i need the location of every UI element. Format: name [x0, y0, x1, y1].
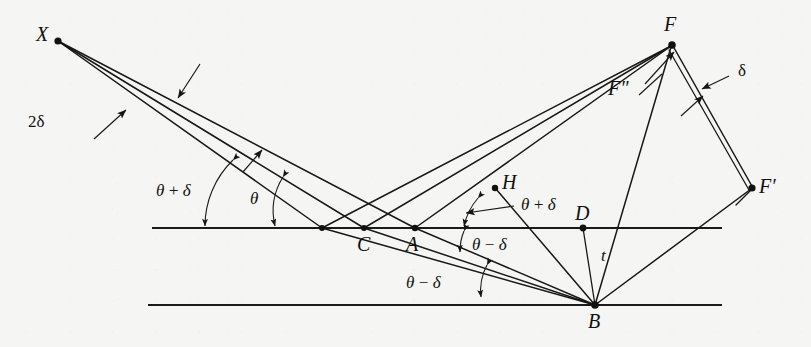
label-F-prime: F′ [759, 176, 776, 196]
ray-diagram-figure: X C A H D B F F″ F′ t 2δ θ + δ θ θ + δ θ… [0, 0, 811, 347]
two-delta-lower-leader [94, 110, 126, 139]
dot-A [412, 225, 418, 231]
label-B: B [588, 311, 600, 331]
dot-X [54, 37, 61, 44]
incident-ray-bundle [58, 41, 415, 228]
label-theta-plus-delta-mid: θ + δ [521, 196, 556, 213]
edge-F-to-Fprime-inner [669, 50, 749, 190]
label-delta: δ [738, 62, 746, 79]
label-theta-plus-delta-left: θ + δ [156, 182, 191, 199]
ray-B-to-Fprime [595, 189, 751, 305]
label-thickness-t: t [601, 247, 606, 264]
label-theta-minus-delta-lower: θ − δ [406, 274, 441, 291]
label-X: X [36, 24, 48, 44]
edge-Fprime-tail [736, 189, 752, 205]
dot-F [668, 41, 676, 49]
label-D: D [575, 203, 589, 223]
dot-Fprime [748, 184, 755, 191]
incident-ray-3 [58, 41, 415, 228]
two-delta-upper-leader [178, 64, 200, 98]
dot-B [591, 301, 599, 309]
label-theta-minus-delta-upper: θ − δ [472, 236, 507, 253]
reflected-ray-1 [322, 46, 671, 228]
wedge-inner-leader [681, 96, 703, 116]
x-ray-lower-leader [243, 150, 262, 172]
label-F-double-prime: F″ [608, 78, 629, 98]
arc-theta [273, 177, 283, 226]
ray-B-to-F [595, 47, 671, 305]
dot-H [492, 185, 498, 191]
label-two-delta: 2δ [28, 113, 45, 130]
plate-surfaces [148, 228, 722, 305]
dot-C [361, 225, 367, 231]
arc-theta-plus-delta-left [205, 160, 233, 226]
label-F: F [664, 14, 676, 34]
label-A: A [406, 234, 418, 254]
delta-leader [702, 76, 729, 89]
label-theta: θ [250, 190, 258, 207]
label-C: C [357, 234, 370, 254]
theta-plus-delta-mid-leader [466, 206, 514, 213]
incident-ray-2 [58, 41, 364, 228]
reflected-ray-bundle [322, 46, 671, 228]
arc-theta-minus-delta-lower [481, 265, 487, 297]
label-H: H [502, 172, 516, 192]
dot-D [580, 225, 587, 232]
dot-P [319, 225, 325, 231]
diagram-canvas [0, 0, 811, 347]
